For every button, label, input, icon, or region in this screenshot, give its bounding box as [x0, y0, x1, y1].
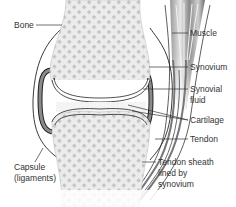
label-muscle: Muscle — [190, 28, 217, 38]
label-tendon-sheath-line3: synovium — [158, 179, 194, 189]
label-synovial-fluid-line1: Synovial — [190, 84, 222, 94]
upper-bone — [50, 0, 150, 102]
label-capsule-line1: Capsule — [14, 162, 45, 172]
label-tendon-sheath-line1: Tendon sheath — [158, 157, 214, 167]
label-bone: Bone — [14, 20, 34, 30]
label-cartilage: Cartilage — [190, 115, 224, 125]
label-synovium: Synovium — [190, 62, 227, 72]
label-synovial-fluid-line2: fluid — [190, 95, 206, 105]
label-tendon: Tendon — [190, 134, 218, 144]
label-capsule-line2: (ligaments) — [14, 173, 56, 183]
label-tendon-sheath-line2: lined by — [158, 168, 187, 178]
lower-bone — [40, 109, 160, 207]
